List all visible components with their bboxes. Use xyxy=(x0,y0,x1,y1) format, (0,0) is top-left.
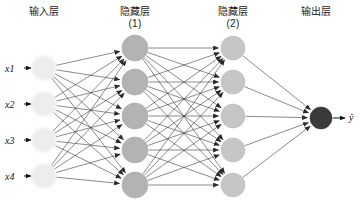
node-input-layer-3 xyxy=(32,128,56,152)
edge-input-layer-2-to-hidden-layer-1-0 xyxy=(53,59,124,131)
node-input-layer-1 xyxy=(32,56,56,80)
network-canvas xyxy=(0,0,364,211)
node-hidden-layer-1-4 xyxy=(122,137,148,163)
node-hidden-layer-1-3 xyxy=(122,103,148,129)
hidden-layer-2-title: 隐藏层 (2) xyxy=(193,6,273,30)
edge-hidden-layer-1-3-to-hidden-layer-2-4 xyxy=(148,155,220,181)
edge-input-layer-1-to-hidden-layer-1-1 xyxy=(56,86,120,101)
edge-hidden-layer-1-2-to-hidden-layer-2-0 xyxy=(146,56,221,108)
input-label-x2: x2 xyxy=(5,99,14,110)
node-hidden-layer-2-4 xyxy=(221,138,245,162)
edge-hidden-layer-1-3-to-hidden-layer-2-1 xyxy=(146,90,221,142)
edge-hidden-layer-2-2-to-output-layer-0 xyxy=(245,116,307,117)
edge-input-layer-3-to-hidden-layer-1-4 xyxy=(56,177,119,183)
hidden-layer-1-title: 隐藏层 (1) xyxy=(95,6,175,30)
edge-hidden-layer-2-3-to-output-layer-0 xyxy=(245,123,309,146)
node-hidden-layer-1-2 xyxy=(122,69,148,95)
node-hidden-layer-2-2 xyxy=(221,70,245,94)
nodes-group xyxy=(32,35,332,198)
edge-hidden-layer-1-4-to-hidden-layer-2-1 xyxy=(144,93,223,176)
node-hidden-layer-2-1 xyxy=(221,36,245,60)
edge-input-layer-2-to-hidden-layer-1-1 xyxy=(55,90,122,133)
node-hidden-layer-2-5 xyxy=(221,173,245,197)
node-output-layer-1 xyxy=(310,107,332,129)
edge-input-layer-0-to-hidden-layer-1-4 xyxy=(52,78,126,173)
input-label-x1: x1 xyxy=(5,63,14,74)
output-label-yhat: ŷ xyxy=(349,112,353,123)
node-input-layer-4 xyxy=(32,164,56,188)
neural-network-diagram: 输入层隐藏层 (1)隐藏层 (2)输出层 x1x2x3x4ŷ xyxy=(0,0,364,211)
node-hidden-layer-2-3 xyxy=(221,104,245,128)
edge-hidden-layer-1-4-to-hidden-layer-2-2 xyxy=(146,124,221,177)
input-label-x3: x3 xyxy=(5,135,14,146)
edge-input-layer-0-to-hidden-layer-1-1 xyxy=(56,70,119,80)
edge-input-layer-2-to-hidden-layer-1-2 xyxy=(56,120,120,137)
node-hidden-layer-1-5 xyxy=(122,172,148,198)
edge-input-layer-1-to-hidden-layer-1-2 xyxy=(56,106,119,114)
output-layer-title: 输出层 xyxy=(276,6,356,18)
input-layer-title: 输入层 xyxy=(4,6,84,18)
node-hidden-layer-1-1 xyxy=(122,35,148,61)
edge-hidden-layer-1-3-to-hidden-layer-2-0 xyxy=(144,58,223,140)
edge-hidden-layer-2-1-to-output-layer-0 xyxy=(245,87,309,113)
node-input-layer-2 xyxy=(32,92,56,116)
edge-hidden-layer-1-0-to-hidden-layer-2-2 xyxy=(146,56,221,108)
input-label-x4: x4 xyxy=(5,171,14,182)
edge-hidden-layer-1-4-to-hidden-layer-2-0 xyxy=(143,60,225,174)
edges-group xyxy=(51,48,310,185)
edge-hidden-layer-2-0-to-output-layer-0 xyxy=(243,56,311,110)
